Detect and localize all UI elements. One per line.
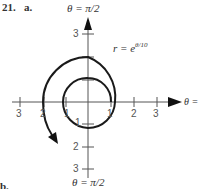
arrow-right-icon [168, 97, 182, 107]
y-tick-label-down3: 3 [73, 164, 79, 174]
x-tick-label-pos2: 2 [131, 109, 137, 119]
y-tick-label-up3: 3 [73, 29, 79, 39]
curve-label-exponent: θ/10 [135, 41, 147, 49]
curve-label: r = eθ/10 [113, 42, 147, 54]
x-tick-label-neg2: 2 [40, 109, 46, 119]
y-tick-label-down1: 1 [75, 118, 81, 128]
spiral-arrowhead-icon [48, 132, 58, 144]
x-tick-label-neg3: 3 [16, 109, 22, 119]
arrow-up-icon [84, 17, 92, 30]
top-axis-label: θ = π/2 [67, 3, 99, 14]
polar-spiral-diagram [0, 0, 198, 189]
bottom-axis-label: θ = π/2 [72, 177, 104, 188]
x-tick-label-pos3: 3 [153, 109, 159, 119]
part-b-label: b. [0, 181, 9, 189]
x-tick-label-neg1: 1 [64, 109, 70, 119]
right-axis-label: θ = 0 [184, 97, 198, 107]
y-tick-label-down2: 2 [73, 142, 79, 152]
x-tick-label-pos1: 1 [107, 109, 113, 119]
curve-label-base: r = e [113, 42, 135, 54]
